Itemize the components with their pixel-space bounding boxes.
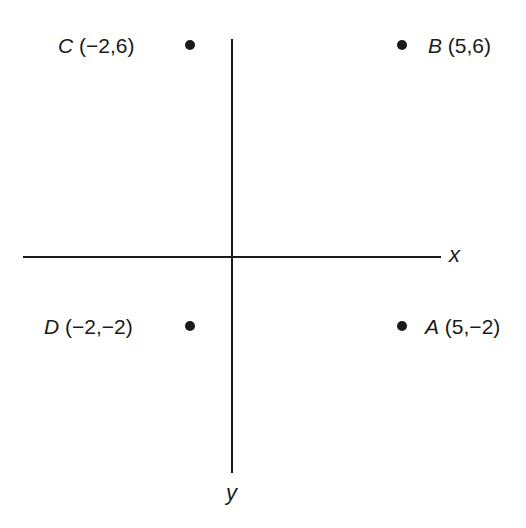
point-a-label: A (5,−2) bbox=[425, 316, 500, 337]
point-b-coords: (5,6) bbox=[448, 34, 491, 57]
point-c-label: C (−2,6) bbox=[58, 35, 134, 56]
point-d-name: D bbox=[44, 315, 59, 338]
point-d-coords: (−2,−2) bbox=[65, 315, 133, 338]
y-axis-label: y bbox=[226, 482, 237, 504]
point-b-label: B (5,6) bbox=[428, 35, 491, 56]
point-b-name: B bbox=[428, 34, 442, 57]
point-a-name: A bbox=[425, 315, 439, 338]
point-d-label: D (−2,−2) bbox=[44, 316, 133, 337]
coordinate-plane bbox=[0, 0, 526, 528]
point-a-dot bbox=[397, 321, 407, 331]
point-b-dot bbox=[397, 40, 407, 50]
point-a-coords: (5,−2) bbox=[445, 315, 500, 338]
point-c-dot bbox=[185, 40, 195, 50]
point-c-coords: (−2,6) bbox=[79, 34, 134, 57]
point-c-name: C bbox=[58, 34, 73, 57]
x-axis-label: x bbox=[449, 244, 460, 266]
point-d-dot bbox=[185, 321, 195, 331]
